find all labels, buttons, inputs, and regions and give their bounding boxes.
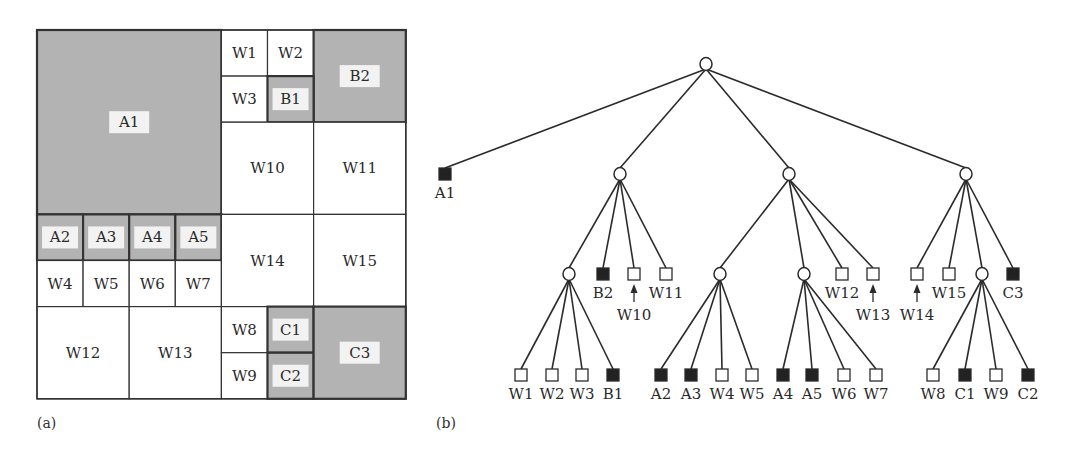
tree-edge bbox=[966, 179, 1013, 268]
leaf-node-a4: A4 bbox=[772, 369, 793, 403]
region-cell-w2: W2 bbox=[268, 30, 314, 76]
region-label: W14 bbox=[250, 252, 285, 270]
node-label: A5 bbox=[801, 385, 822, 403]
region-cell-w7: W7 bbox=[175, 261, 221, 307]
tree-edge bbox=[720, 279, 722, 369]
tree-edge bbox=[965, 279, 982, 369]
leaf-node-w13: W13 bbox=[856, 268, 891, 324]
region-cell-w15: W15 bbox=[314, 214, 406, 306]
region-cell-w4: W4 bbox=[37, 261, 83, 307]
region-label: W8 bbox=[232, 321, 257, 339]
node-label: W3 bbox=[570, 385, 595, 403]
region-cell-c1: C1 bbox=[268, 307, 314, 353]
leaf-node-a3: A3 bbox=[680, 369, 701, 403]
leaf-node-w10: W10 bbox=[617, 268, 652, 324]
region-cell-a3: A3 bbox=[83, 214, 129, 260]
region-label: A1 bbox=[118, 113, 139, 131]
region-quadtree-panel: A1W1W2B2W3B1W10W11A2A3A4A5W4W5W6W7W14W15… bbox=[37, 30, 406, 399]
tree-edges bbox=[445, 69, 1028, 369]
region-label: W5 bbox=[94, 275, 119, 293]
internal-node-icon bbox=[614, 168, 626, 181]
leaf-node-b2: B2 bbox=[593, 268, 614, 302]
leaf-node-w1: W1 bbox=[509, 369, 534, 403]
region-cell-a4: A4 bbox=[129, 214, 175, 260]
node-label: W14 bbox=[900, 306, 935, 324]
node-label: W8 bbox=[921, 385, 946, 403]
region-cell-b1: B1 bbox=[268, 76, 314, 122]
node-label: W1 bbox=[509, 385, 534, 403]
region-label: W15 bbox=[342, 252, 377, 270]
region-label: W7 bbox=[186, 275, 211, 293]
node-label: C3 bbox=[1002, 284, 1023, 302]
region-cell-w8: W8 bbox=[221, 307, 267, 353]
region-cell-w10: W10 bbox=[221, 122, 313, 214]
node-label: C2 bbox=[1017, 385, 1038, 403]
tree-edge bbox=[706, 69, 789, 168]
leaf-node-w4: W4 bbox=[710, 369, 735, 403]
leaf-node-a1: A1 bbox=[434, 168, 455, 202]
region-label: W3 bbox=[232, 90, 257, 108]
tree-edge bbox=[552, 279, 569, 369]
node-label: W15 bbox=[932, 284, 967, 302]
region-cell-w14: W14 bbox=[221, 214, 313, 306]
leaf-node-a5: A5 bbox=[801, 369, 822, 403]
leaf-node-b1: B1 bbox=[603, 369, 624, 403]
leaf-node-w8: W8 bbox=[921, 369, 946, 403]
node-label: W9 bbox=[984, 385, 1009, 403]
arrow-up-icon bbox=[870, 284, 877, 293]
tree-edge bbox=[569, 179, 620, 268]
tree-edge bbox=[620, 69, 706, 168]
internal-node-icon bbox=[783, 168, 795, 181]
node-label: W4 bbox=[710, 385, 735, 403]
quadtree-figure: A1W1W2B2W3B1W10W11A2A3A4A5W4W5W6W7W14W15… bbox=[0, 0, 1078, 457]
region-label: C3 bbox=[349, 344, 370, 362]
tree-edge bbox=[691, 279, 720, 369]
node-label: W10 bbox=[617, 306, 652, 324]
region-label: W9 bbox=[232, 367, 257, 385]
leaf-node-w9: W9 bbox=[984, 369, 1009, 403]
tree-edge bbox=[720, 279, 752, 369]
region-cell-a1: A1 bbox=[37, 30, 221, 214]
internal-node-icon bbox=[798, 268, 810, 281]
node-label: A3 bbox=[680, 385, 701, 403]
region-label: W10 bbox=[250, 159, 285, 177]
panel-a-label: (a) bbox=[37, 415, 56, 431]
region-label: W12 bbox=[66, 344, 101, 362]
quadtree-graph-panel: A1B2W10W11W12W13W14W15C3W1W2W3B1A2A3W4W5… bbox=[434, 58, 1039, 404]
tree-edge bbox=[521, 279, 569, 369]
node-label: A2 bbox=[650, 385, 671, 403]
leaf-node-w5: W5 bbox=[740, 369, 765, 403]
node-label: C1 bbox=[954, 385, 975, 403]
tree-edge bbox=[917, 179, 966, 268]
leaf-node-c3: C3 bbox=[1002, 268, 1023, 302]
leaf-node-c2: C2 bbox=[1017, 369, 1038, 403]
leaf-node-w14: W14 bbox=[900, 268, 935, 324]
leaf-node-w15: W15 bbox=[932, 268, 967, 302]
region-cell-w3: W3 bbox=[221, 76, 267, 122]
node-label: A1 bbox=[434, 184, 455, 202]
region-cell-w13: W13 bbox=[129, 307, 221, 399]
arrow-up-icon bbox=[914, 284, 921, 293]
node-label: W5 bbox=[740, 385, 765, 403]
region-cell-w6: W6 bbox=[129, 261, 175, 307]
region-label: W11 bbox=[342, 159, 377, 177]
region-label: A2 bbox=[49, 228, 70, 246]
tree-edge bbox=[949, 179, 966, 268]
region-label: B1 bbox=[280, 90, 301, 108]
leaf-node-a2: A2 bbox=[650, 369, 671, 403]
node-label: W11 bbox=[649, 284, 684, 302]
arrow-up-icon bbox=[631, 284, 638, 293]
region-cell-w12: W12 bbox=[37, 307, 129, 399]
region-label: W13 bbox=[158, 344, 193, 362]
tree-edge bbox=[445, 69, 706, 168]
tree-edge bbox=[706, 69, 966, 168]
leaf-node-w2: W2 bbox=[540, 369, 565, 403]
region-label: W1 bbox=[232, 44, 257, 62]
node-label: W7 bbox=[864, 385, 889, 403]
region-label: B2 bbox=[349, 67, 370, 85]
internal-node-icon bbox=[714, 268, 726, 281]
node-label: W13 bbox=[856, 306, 891, 324]
region-cell-a2: A2 bbox=[37, 214, 83, 260]
tree-edge bbox=[720, 179, 789, 268]
leaf-node-w3: W3 bbox=[570, 369, 595, 403]
